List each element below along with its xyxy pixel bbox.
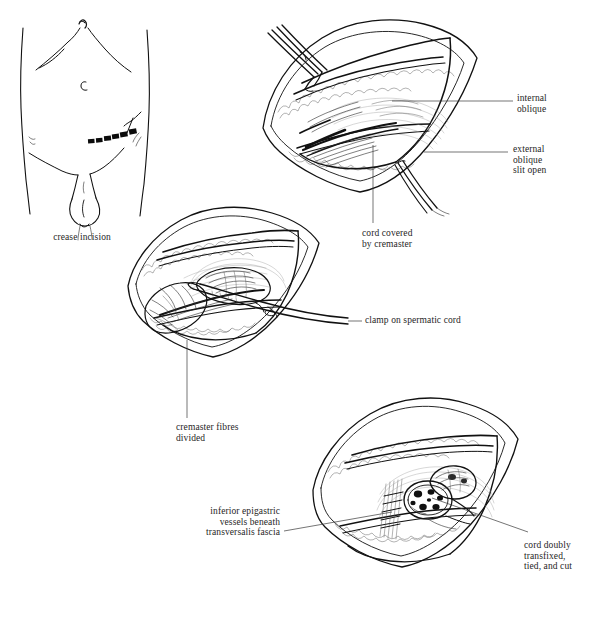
figure-body-diagram (21, 20, 150, 240)
figure-external-oblique-opened (263, 20, 513, 223)
plate-artwork (0, 0, 589, 620)
label-cord-doubly-transfixed: cord doubly transfixed, tied, and cut (524, 540, 588, 572)
illustration-plate: crease incision internal oblique externa… (0, 0, 589, 620)
label-cord-covered-by-cremaster: cord covered by cremaster (362, 228, 446, 249)
label-cremaster-fibres-divided: cremaster fibres divided (176, 422, 280, 443)
label-inferior-epigastric-vessels: inferior epigastric vessels beneath tran… (156, 506, 280, 538)
label-clamp-on-spermatic-cord: clamp on spermatic cord (365, 315, 495, 326)
label-crease-incision: crease incision (22, 232, 142, 243)
exposed-cord-structures (190, 259, 286, 305)
label-internal-oblique: internal oblique (517, 93, 587, 114)
figure-clamp-on-cord (128, 207, 362, 418)
label-external-oblique-slit-open: external oblique slit open (513, 144, 587, 176)
crease-incision-marks (88, 128, 137, 143)
figure-cord-transfixed (284, 398, 528, 567)
leader-cord-transfixed (432, 498, 528, 532)
forceps-lower (395, 161, 449, 216)
